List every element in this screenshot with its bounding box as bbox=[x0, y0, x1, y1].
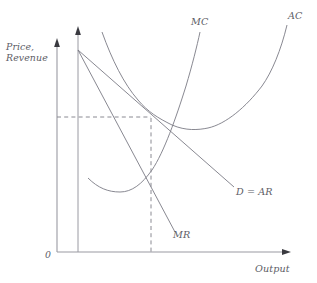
demand-ar-curve bbox=[78, 50, 234, 187]
demand-ar-curve-label: D = AR bbox=[236, 186, 273, 197]
y-axis-arrow-icon bbox=[54, 38, 60, 47]
economics-diagram-canvas: Price,Revenue MC AC D = AR MR Output 0 bbox=[0, 0, 317, 283]
secondary-vertical-arrow-icon bbox=[75, 26, 81, 35]
x-axis-arrow-icon bbox=[282, 249, 291, 255]
mr-curve-label: MR bbox=[173, 229, 190, 240]
origin-label: 0 bbox=[45, 249, 51, 260]
average-cost-curve bbox=[102, 25, 287, 130]
y-axis-label: Price,Revenue bbox=[6, 41, 48, 63]
marginal-revenue-curve bbox=[78, 50, 175, 232]
y-axis-label-line2: Revenue bbox=[6, 52, 48, 63]
mc-curve-label: MC bbox=[191, 16, 208, 27]
x-axis-label: Output bbox=[255, 263, 290, 274]
ac-curve-label: AC bbox=[288, 10, 302, 21]
marginal-cost-curve bbox=[88, 32, 200, 192]
y-axis-label-line1: Price, bbox=[6, 41, 34, 52]
